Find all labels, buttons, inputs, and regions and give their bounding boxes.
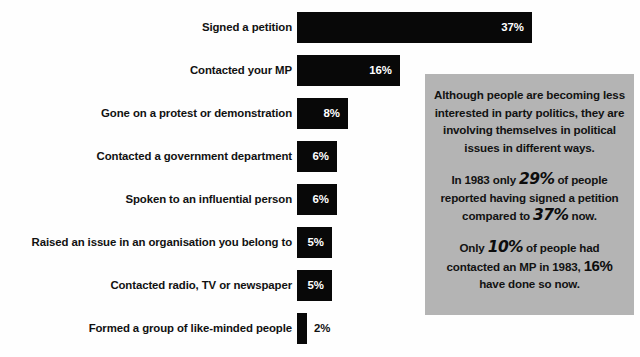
bar-rect: 16%	[297, 55, 400, 86]
bar-value-label: 5%	[308, 270, 324, 301]
bar-row: Signed a petition 37%	[0, 12, 640, 43]
bar-value-label: 2%	[314, 313, 330, 344]
bar-rect: 2%	[297, 313, 307, 344]
bar-value-label: 6%	[313, 141, 329, 172]
bar-value-label: 8%	[324, 98, 340, 129]
callout-paragraph-3: Only 10% of people had contacted an MP i…	[434, 239, 625, 293]
bar-value-label: 6%	[313, 184, 329, 215]
bar-value-label: 37%	[501, 12, 524, 43]
bar-category-label: Contacted your MP	[190, 55, 292, 86]
bar-rect: 5%	[297, 227, 332, 258]
bar-rect: 6%	[297, 184, 337, 215]
bar-category-label: Formed a group of like-minded people	[89, 313, 292, 344]
callout-p2-text-1: In 1983 only	[451, 173, 519, 186]
bar-value-label: 16%	[369, 55, 392, 86]
bar-category-label: Gone on a protest or demonstration	[101, 98, 292, 129]
bar-row: Formed a group of like-minded people 2%	[0, 313, 640, 344]
callout-p3-text-3: have done so now.	[479, 277, 580, 290]
bar-category-label: Spoken to an influential person	[125, 184, 292, 215]
bar-rect: 8%	[297, 98, 348, 129]
callout-p2-figure-1: 29%	[519, 170, 554, 188]
callout-p2-figure-2: 37%	[533, 206, 568, 224]
callout-p3-text-1: Only	[459, 241, 487, 254]
bar-value-label: 5%	[308, 227, 324, 258]
callout-p2-text-3: now.	[568, 209, 596, 222]
callout-paragraph-1: Although people are becoming less intere…	[434, 86, 625, 156]
bar-chart: Signed a petition 37% Contacted your MP …	[0, 0, 640, 357]
callout-p3-figure-2: 16%	[584, 257, 613, 274]
bar-category-label: Raised an issue in an organisation you b…	[32, 227, 292, 258]
bar-category-label: Contacted radio, TV or newspaper	[110, 270, 292, 301]
callout-panel: Although people are becoming less intere…	[425, 74, 634, 315]
bar-rect: 5%	[297, 270, 332, 301]
bar-category-label: Contacted a government department	[97, 141, 292, 172]
bar-category-label: Signed a petition	[202, 12, 292, 43]
callout-p3-figure-1: 10%	[488, 238, 523, 256]
bar-rect: 6%	[297, 141, 337, 172]
callout-paragraph-2: In 1983 only 29% of people reported havi…	[434, 171, 625, 224]
bar-rect: 37%	[297, 12, 532, 43]
